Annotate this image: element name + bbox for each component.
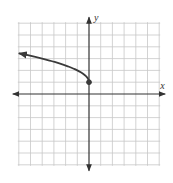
endpoint-dot — [87, 80, 92, 85]
y-axis-label: y — [93, 12, 99, 23]
axes — [13, 17, 165, 171]
x-axis-label: x — [159, 80, 165, 91]
series — [19, 53, 92, 84]
function-graph: x y — [0, 0, 173, 183]
